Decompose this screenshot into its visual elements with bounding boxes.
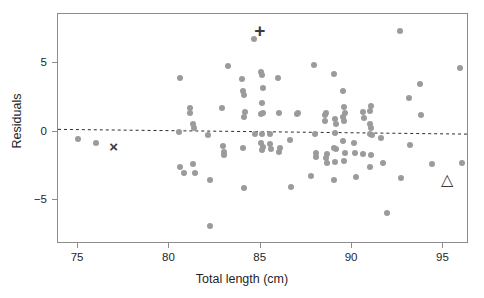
data-point	[342, 150, 348, 156]
y-tick	[52, 131, 57, 132]
data-point	[190, 161, 196, 167]
data-point	[221, 152, 227, 158]
data-point	[398, 175, 404, 181]
x-tick	[442, 243, 443, 248]
data-point	[368, 103, 374, 109]
x-tick	[351, 243, 352, 248]
x-tick-label: 85	[253, 251, 266, 263]
data-point	[340, 88, 346, 94]
data-point	[361, 115, 367, 121]
data-point	[207, 223, 213, 229]
zero-reference-line	[58, 14, 467, 242]
data-point	[192, 170, 198, 176]
data-point	[369, 132, 375, 138]
data-point	[207, 177, 213, 183]
y-tick	[52, 199, 57, 200]
y-axis-label: Residuals	[10, 61, 24, 181]
data-point	[259, 72, 265, 78]
data-point	[312, 131, 318, 137]
data-point	[241, 114, 247, 120]
data-point	[276, 110, 282, 116]
data-point	[260, 85, 266, 91]
data-point	[287, 137, 293, 143]
data-point	[324, 160, 330, 166]
data-point	[429, 161, 435, 167]
data-point	[380, 160, 386, 166]
plus-marker: +	[254, 21, 265, 40]
data-point	[332, 130, 338, 136]
data-point	[187, 110, 193, 116]
x-tick-label: 80	[162, 251, 175, 263]
data-point	[93, 140, 99, 146]
cross-marker: ×	[109, 139, 118, 154]
data-point	[205, 132, 211, 138]
data-point	[331, 177, 337, 183]
data-point	[406, 95, 412, 101]
data-point	[367, 164, 373, 170]
data-point	[275, 75, 281, 81]
data-point	[259, 131, 265, 137]
data-point	[225, 63, 231, 69]
x-tick	[77, 243, 78, 248]
x-axis-label: Total length (cm)	[0, 272, 484, 286]
data-point	[360, 151, 366, 157]
data-point	[191, 125, 197, 131]
data-point	[288, 184, 294, 190]
data-point	[177, 164, 183, 170]
data-point	[378, 135, 384, 141]
data-point	[259, 147, 265, 153]
data-point	[332, 159, 338, 165]
data-point	[407, 142, 413, 148]
data-point	[311, 62, 317, 68]
data-point	[457, 65, 463, 71]
data-point	[322, 118, 328, 124]
data-point	[397, 28, 403, 34]
data-point	[459, 160, 465, 166]
data-point	[75, 136, 81, 142]
data-point	[351, 140, 357, 146]
data-point	[368, 125, 374, 131]
data-point	[340, 138, 346, 144]
data-point	[331, 71, 337, 77]
data-point	[241, 92, 247, 98]
y-tick-label: −5	[15, 193, 47, 205]
data-point	[240, 145, 246, 151]
residual-scatter-plot-figure: 7580859095 50−5 Total length (cm) Residu…	[0, 0, 484, 298]
plot-area	[58, 14, 467, 242]
plot-frame	[57, 13, 468, 243]
data-point	[322, 112, 328, 118]
x-tick	[168, 243, 169, 248]
data-point	[176, 129, 182, 135]
data-point	[333, 121, 339, 127]
data-point	[177, 75, 183, 81]
data-point	[341, 118, 347, 124]
data-point	[295, 110, 301, 116]
data-point	[268, 146, 274, 152]
data-point	[313, 154, 319, 160]
data-point	[252, 131, 258, 137]
data-point	[239, 76, 245, 82]
y-tick	[52, 62, 57, 63]
data-point	[333, 146, 339, 152]
triangle-marker: △	[441, 172, 453, 188]
data-point	[352, 150, 358, 156]
data-point	[417, 81, 423, 87]
x-tick	[260, 243, 261, 248]
data-point	[259, 100, 265, 106]
data-point	[353, 174, 359, 180]
data-point	[181, 170, 187, 176]
data-point	[360, 109, 366, 115]
data-point	[418, 112, 424, 118]
data-point	[276, 149, 282, 155]
data-point	[258, 111, 264, 117]
data-point	[368, 152, 374, 158]
data-point	[219, 105, 225, 111]
data-point	[308, 173, 314, 179]
x-tick-label: 75	[71, 251, 84, 263]
x-tick-label: 95	[436, 251, 449, 263]
x-tick-label: 90	[345, 251, 358, 263]
data-point	[384, 210, 390, 216]
data-point	[241, 185, 247, 191]
data-point	[267, 131, 273, 137]
data-point	[341, 158, 347, 164]
